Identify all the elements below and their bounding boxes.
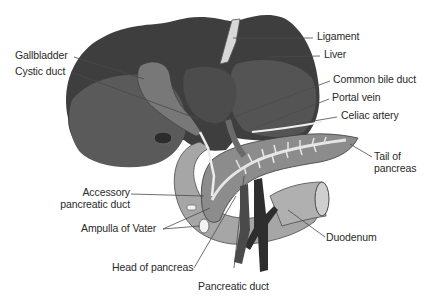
label-head-of-pancreas: Head of pancreas <box>112 262 193 274</box>
label-duodenum: Duodenum <box>326 232 377 244</box>
label-common-bile-duct: Common bile duct <box>333 74 416 86</box>
label-ampulla-of-vater: Ampulla of Vater <box>81 223 156 235</box>
label-cystic-duct: Cystic duct <box>15 66 65 78</box>
label-ligament: Ligament <box>317 31 359 43</box>
label-portal-vein: Portal vein <box>332 92 381 104</box>
label-accessory-pancreatic-duct: Accessory pancreatic duct <box>58 187 130 210</box>
label-liver: Liver <box>324 49 346 61</box>
label-accessory-line2: pancreatic duct <box>58 199 130 211</box>
ampulla-shape <box>199 219 209 233</box>
label-tail-of-pancreas-line2: pancreas <box>374 163 416 175</box>
label-tail-of-pancreas: Tail of pancreas <box>374 151 416 174</box>
label-gallbladder: Gallbladder <box>15 50 68 62</box>
vessel-stump <box>154 132 172 144</box>
anatomy-diagram: Gallbladder Cystic duct Ligament Liver C… <box>0 0 433 300</box>
label-pancreatic-duct: Pancreatic duct <box>198 281 269 293</box>
duodenum-cut-end <box>315 182 329 216</box>
label-celiac-artery: Celiac artery <box>341 110 399 122</box>
liver-pancreas-illustration <box>0 0 433 300</box>
label-tail-of-pancreas-line1: Tail of <box>374 151 416 163</box>
label-accessory-line1: Accessory <box>58 187 130 199</box>
accessory-papilla-shape <box>187 205 196 210</box>
